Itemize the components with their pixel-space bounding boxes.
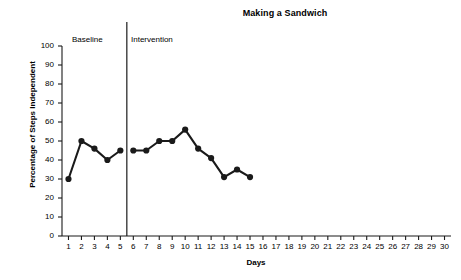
axes: [58, 46, 451, 240]
plot-area: [0, 0, 461, 280]
data-series: [65, 127, 253, 183]
chart-figure: Making a Sandwich Percentage of Steps In…: [0, 0, 461, 280]
